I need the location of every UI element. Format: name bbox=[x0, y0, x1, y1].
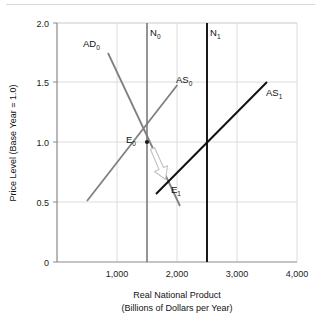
x-tick-label-4000: 4,000 bbox=[286, 269, 309, 279]
y-tick-label-2: 2.0 bbox=[36, 19, 49, 29]
y-tick-label-0p5: 0.5 bbox=[36, 198, 49, 208]
economics-ad-as-figure: 2.0 1.5 1.0 0.5 0 1,000 2,000 3,000 4,00… bbox=[0, 0, 321, 332]
equilibrium-marker-e0 bbox=[145, 140, 149, 144]
x-tick-label-1000: 1,000 bbox=[106, 269, 129, 279]
y-axis-title: Price Level (Base Year = 1.0) bbox=[8, 85, 18, 202]
y-tick-label-1: 1.0 bbox=[36, 138, 49, 148]
x-axis-title-line2: (Billions of Dollars per Year) bbox=[121, 303, 232, 313]
y-tick-label-0: 0 bbox=[44, 258, 49, 268]
x-tick-label-3000: 3,000 bbox=[226, 269, 249, 279]
ad-as-chart: 2.0 1.5 1.0 0.5 0 1,000 2,000 3,000 4,00… bbox=[0, 0, 321, 332]
y-tick-label-1p5: 1.5 bbox=[36, 78, 49, 88]
x-axis-title-line1: Real National Product bbox=[133, 290, 221, 300]
x-tick-label-2000: 2,000 bbox=[166, 269, 189, 279]
